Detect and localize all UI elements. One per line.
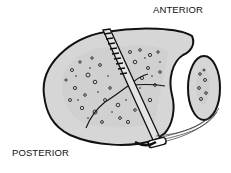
small-bone-core <box>196 68 210 104</box>
anterior-label: ANTERIOR <box>153 4 203 15</box>
posterior-label: POSTERIOR <box>12 147 69 158</box>
anatomical-diagram: ANTERIOR POSTERIOR <box>0 0 231 173</box>
